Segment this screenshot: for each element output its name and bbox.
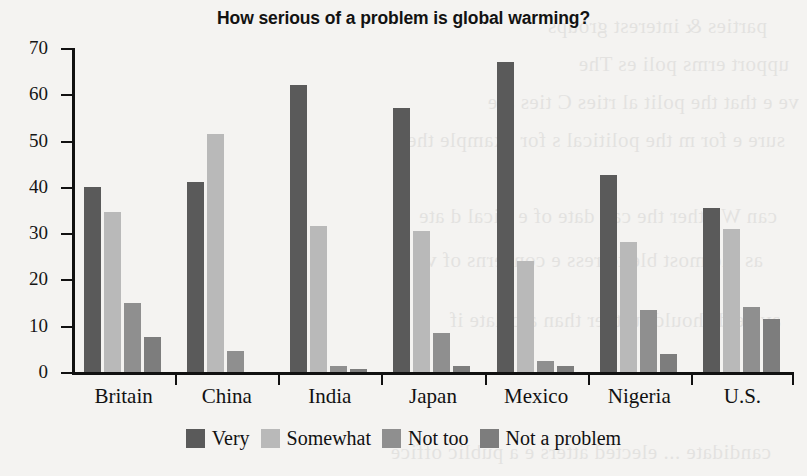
x-axis-label-china: China: [175, 384, 278, 409]
legend-item-very[interactable]: Very: [186, 427, 250, 450]
y-axis-tick: [61, 326, 72, 328]
bar: [600, 175, 617, 372]
bar: [703, 208, 720, 372]
bar: [84, 187, 101, 372]
bar-group: [600, 48, 677, 372]
y-axis-tick-label: 60: [0, 83, 48, 105]
bar: [104, 212, 121, 372]
x-axis-label-britain: Britain: [72, 384, 175, 409]
bar: [290, 85, 307, 372]
legend-label: Somewhat: [287, 427, 371, 450]
bar-group: [290, 48, 367, 372]
bar: [660, 354, 677, 373]
bar-group-bars: [497, 48, 574, 372]
y-axis-tick: [61, 48, 72, 50]
x-axis-label-japan: Japan: [381, 384, 484, 409]
legend-swatch-icon: [261, 429, 280, 448]
bar: [350, 369, 367, 372]
y-axis-tick-label: 10: [0, 315, 48, 337]
bar-group-bars: [600, 48, 677, 372]
bar-group-bars: [187, 48, 264, 372]
bar: [723, 229, 740, 372]
bar-group: [497, 48, 574, 372]
bar: [537, 361, 554, 372]
x-axis-line: [72, 372, 794, 375]
bar-group-bars: [84, 48, 161, 372]
bar: [330, 366, 347, 372]
bar: [763, 319, 780, 372]
x-axis-label-mexico: Mexico: [485, 384, 588, 409]
y-axis-tick: [61, 94, 72, 96]
x-axis-label-us: U.S.: [691, 384, 794, 409]
y-axis-tick-label: 0: [0, 361, 48, 383]
chart-title: How serious of a problem is global warmi…: [0, 8, 807, 29]
legend-swatch-icon: [480, 429, 499, 448]
legend-label: Very: [212, 427, 250, 450]
y-axis-tick: [61, 187, 72, 189]
bar: [227, 351, 244, 372]
y-axis-line: [72, 48, 75, 372]
bar: [517, 261, 534, 372]
chart-page: parties & interest groups upport erms po…: [0, 0, 807, 476]
y-axis-tick: [61, 233, 72, 235]
bar: [497, 62, 514, 372]
y-axis-tick-label: 20: [0, 268, 48, 290]
bar: [557, 366, 574, 372]
bar-group: [393, 48, 470, 372]
bar-group: [703, 48, 780, 372]
legend-item-notaproblem[interactable]: Not a problem: [480, 427, 622, 450]
bar: [620, 242, 637, 372]
x-axis-group-separator: [792, 372, 794, 385]
y-axis-tick-label: 40: [0, 176, 48, 198]
bar: [310, 226, 327, 372]
bar: [124, 303, 141, 372]
bar: [393, 108, 410, 372]
x-axis-label-india: India: [278, 384, 381, 409]
bar-group-bars: [703, 48, 780, 372]
y-axis-tick-label: 30: [0, 222, 48, 244]
bar: [144, 337, 161, 372]
bar: [743, 307, 760, 372]
legend-label: Not a problem: [506, 427, 622, 450]
y-axis-tick: [61, 279, 72, 281]
bar-group: [187, 48, 264, 372]
legend-swatch-icon: [186, 429, 205, 448]
bar: [207, 134, 224, 372]
y-axis-tick-label: 50: [0, 130, 48, 152]
y-axis-tick-label: 70: [0, 37, 48, 59]
bar: [453, 366, 470, 372]
legend-label: Not too: [408, 427, 469, 450]
legend-item-nottoo[interactable]: Not too: [382, 427, 469, 450]
bar-group-bars: [290, 48, 367, 372]
bar-group: [84, 48, 161, 372]
chart-legend: VerySomewhatNot tooNot a problem: [0, 427, 807, 450]
plot-area: 010203040506070 BritainChinaIndiaJapanMe…: [72, 48, 794, 372]
legend-swatch-icon: [382, 429, 401, 448]
x-axis-label-nigeria: Nigeria: [588, 384, 691, 409]
legend-item-somewhat[interactable]: Somewhat: [261, 427, 371, 450]
y-axis-tick: [61, 372, 72, 374]
bar: [187, 182, 204, 372]
bar: [413, 231, 430, 372]
bar: [640, 310, 657, 372]
bar-group-bars: [393, 48, 470, 372]
y-axis-tick: [61, 141, 72, 143]
bar: [433, 333, 450, 372]
